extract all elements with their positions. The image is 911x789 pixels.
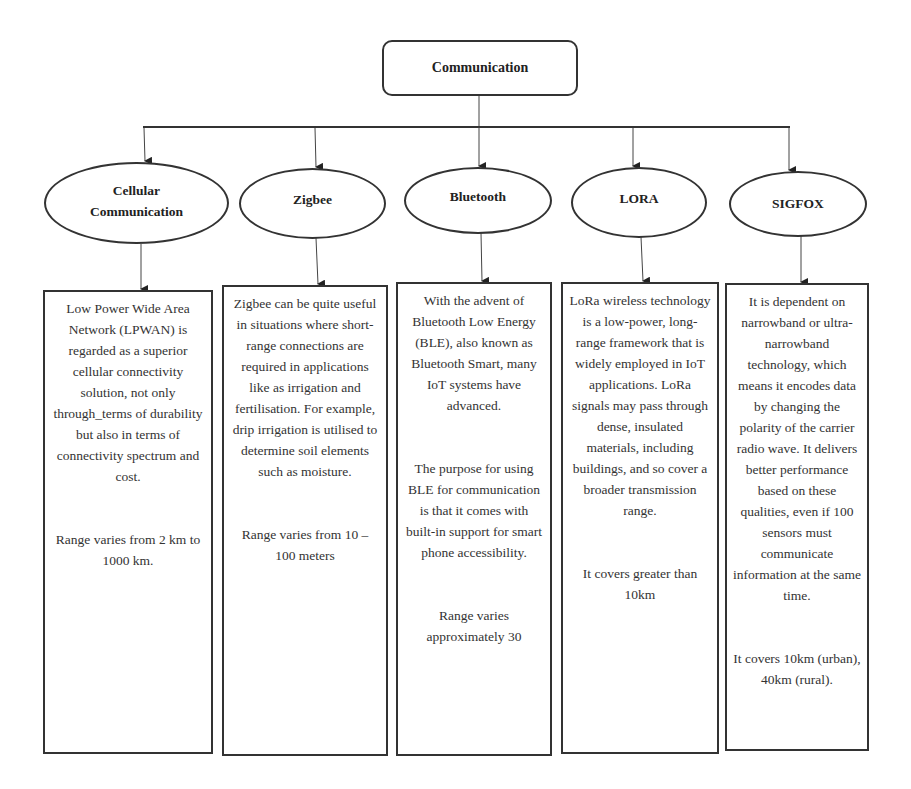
root-node-label: Communication (432, 60, 528, 76)
arrow-lora-to-box (641, 237, 643, 281)
node-lora: LORA (571, 167, 707, 238)
node-bluetooth: Bluetooth (404, 167, 552, 234)
zigbee-description: Zigbee can be quite useful in situations… (230, 293, 380, 482)
root-node-communication: Communication (382, 40, 578, 96)
arrow-to-zigbee (315, 128, 316, 167)
sigfox-range: It covers 10km (urban), 40km (rural). (733, 648, 861, 690)
arrow-zigbee-to-box (316, 238, 318, 284)
description-box-zigbee: Zigbee can be quite useful in situations… (222, 285, 388, 756)
bluetooth-description-2: The purpose for using BLE for communicat… (404, 458, 544, 563)
zigbee-range: Range varies from 10 – 100 meters (230, 524, 380, 566)
description-box-cellular: Low Power Wide Area Network (LPWAN) is r… (43, 290, 213, 754)
node-cellular: Cellular Communication (44, 162, 229, 244)
lora-range: It covers greater than 10km (569, 563, 711, 605)
node-lora-label: LORA (619, 188, 658, 209)
bluetooth-description: With the advent of Bluetooth Low Energy … (404, 290, 544, 416)
description-box-sigfox: It is dependent on narrowband or ultra-n… (725, 283, 869, 751)
arrow-bluetooth-to-box (481, 233, 482, 281)
description-box-lora: LoRa wireless technology is a low-power,… (561, 282, 719, 754)
lora-description: LoRa wireless technology is a low-power,… (569, 290, 711, 521)
node-zigbee: Zigbee (239, 168, 386, 239)
cellular-description: Low Power Wide Area Network (LPWAN) is r… (51, 298, 205, 487)
node-cellular-label-line1: Cellular (90, 180, 183, 201)
node-sigfox: SIGFOX (729, 171, 867, 237)
node-zigbee-label: Zigbee (293, 189, 332, 210)
node-sigfox-label: SIGFOX (772, 193, 824, 214)
arrow-to-cellular (144, 128, 145, 161)
bluetooth-range: Range varies approximately 30 (404, 605, 544, 647)
node-bluetooth-label: Bluetooth (450, 186, 506, 207)
cellular-range: Range varies from 2 km to 1000 km. (51, 529, 205, 571)
sigfox-description: It is dependent on narrowband or ultra-n… (733, 291, 861, 606)
description-box-bluetooth: With the advent of Bluetooth Low Energy … (396, 282, 552, 756)
node-cellular-label-line2: Communication (90, 201, 183, 222)
